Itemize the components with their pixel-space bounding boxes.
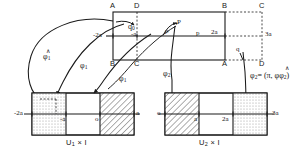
label-bl-tick-0: -2a: [14, 110, 23, 117]
label-br-tick-3: 3a: [272, 110, 279, 117]
label-phi1-a: φ1: [43, 53, 50, 62]
label-rho: ρ: [165, 28, 169, 35]
label-phi2-equation: φ2= (π, φφ2): [250, 72, 289, 81]
label-phi1-b: φ1: [80, 62, 87, 71]
label-br-tick-1: a: [194, 116, 197, 123]
label-top-minus-a: -a: [131, 31, 136, 38]
label-top-rect-C-bottom: C: [134, 60, 140, 68]
label-top-rect-D-outer: D: [259, 60, 265, 68]
label-top-rect-A: A: [110, 2, 115, 10]
bottom-right-rectangle: [158, 93, 274, 135]
label-q0: q0: [128, 23, 135, 32]
caption-u1: U1 × I: [66, 139, 87, 148]
label-top-rect-C-outer: C: [259, 2, 265, 10]
label-top-rect-B-bottom: B: [110, 60, 115, 68]
label-top-rect-B: B: [222, 2, 227, 10]
figure-canvas: A D B C B C A D -2a -a 2a 3a q0 ρ P p q …: [0, 0, 306, 151]
label-br-tick-2: 2a: [222, 116, 229, 123]
label-top-3a: 3a: [265, 31, 272, 38]
label-q: q: [236, 46, 240, 53]
label-phi2-a: φ2: [163, 70, 170, 79]
phi1-arrows: [28, 19, 176, 99]
label-bl-tick-3: a: [136, 110, 139, 117]
label-P: P: [177, 19, 181, 26]
label-phi1-c: φ1: [119, 75, 126, 84]
label-p: p: [196, 30, 200, 37]
label-top-2a: 2a: [211, 29, 218, 36]
label-top-rect-A-bottom: A: [222, 60, 227, 68]
caption-u2: U2 × I: [199, 139, 220, 148]
label-top-minus-2a: -2a: [93, 32, 102, 39]
bottom-left-rectangle: [24, 93, 140, 135]
label-bl-tick-1: -a: [60, 116, 65, 123]
label-br-tick-0: o: [157, 110, 161, 117]
label-top-rect-D: D: [134, 2, 140, 10]
label-bl-tick-2: o: [95, 116, 99, 123]
